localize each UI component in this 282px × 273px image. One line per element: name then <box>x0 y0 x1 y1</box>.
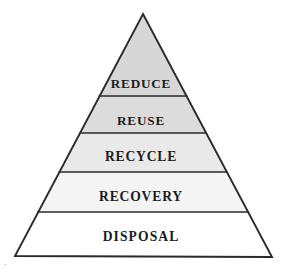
band-fill-reduce <box>100 14 187 96</box>
pyramid-bands <box>15 14 272 257</box>
pyramid-diagram <box>0 0 282 273</box>
band-fill-recycle <box>60 133 227 172</box>
band-fill-disposal <box>15 212 272 257</box>
scan-artifact: '' <box>4 264 10 268</box>
waste-hierarchy-figure: REDUCE REUSE RECYCLE RECOVERY DISPOSAL '… <box>0 0 282 273</box>
band-fill-recovery <box>38 172 248 212</box>
band-fill-reuse <box>80 96 206 133</box>
